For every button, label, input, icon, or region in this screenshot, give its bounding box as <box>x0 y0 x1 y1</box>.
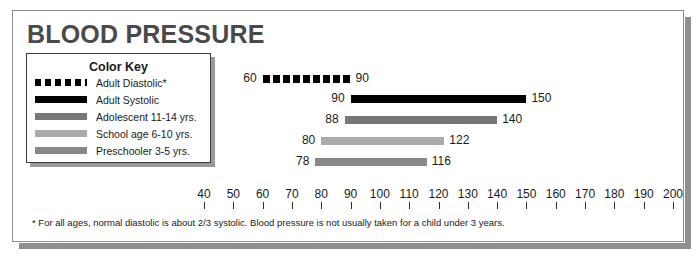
axis-tick-mark <box>233 202 234 209</box>
axis-tick-mark <box>204 202 205 209</box>
axis-tick-mark <box>351 202 352 209</box>
axis-tick-mark <box>585 202 586 209</box>
axis-tick-mark <box>497 202 498 209</box>
axis-tick-label: 70 <box>277 187 307 201</box>
axis-tick-label: 80 <box>306 187 336 201</box>
axis-tick-mark <box>321 202 322 209</box>
axis-tick-label: 150 <box>511 187 541 201</box>
axis-tick-mark <box>614 202 615 209</box>
poster-shadow-right <box>685 17 691 249</box>
axis-tick-label: 130 <box>453 187 483 201</box>
x-axis: 4050607080901001101201301401501601701801… <box>13 11 685 243</box>
axis-tick-label: 50 <box>218 187 248 201</box>
axis-tick-label: 180 <box>599 187 629 201</box>
axis-tick-mark <box>263 202 264 209</box>
footnote: * For all ages, normal diastolic is abou… <box>32 217 505 228</box>
axis-tick-mark <box>468 202 469 209</box>
axis-tick-mark <box>673 202 674 209</box>
axis-tick-mark <box>644 202 645 209</box>
axis-tick-mark <box>292 202 293 209</box>
axis-tick-label: 100 <box>365 187 395 201</box>
axis-tick-label: 200 <box>658 187 688 201</box>
axis-tick-label: 60 <box>248 187 278 201</box>
axis-tick-mark <box>439 202 440 209</box>
axis-tick-label: 90 <box>336 187 366 201</box>
axis-tick-label: 120 <box>424 187 454 201</box>
axis-tick-mark <box>526 202 527 209</box>
axis-tick-label: 190 <box>629 187 659 201</box>
axis-tick-mark <box>409 202 410 209</box>
axis-tick-label: 170 <box>570 187 600 201</box>
axis-tick-mark <box>556 202 557 209</box>
axis-tick-label: 110 <box>394 187 424 201</box>
axis-tick-label: 40 <box>189 187 219 201</box>
axis-tick-mark <box>380 202 381 209</box>
axis-tick-label: 140 <box>482 187 512 201</box>
poster-shadow-bottom <box>19 243 691 249</box>
blood-pressure-poster: BLOOD PRESSURE Color Key Adult Diastolic… <box>12 10 684 242</box>
axis-tick-label: 160 <box>541 187 571 201</box>
